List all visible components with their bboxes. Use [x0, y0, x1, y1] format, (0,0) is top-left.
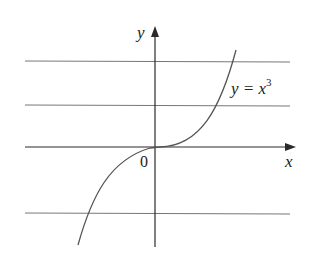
y-axis-label: y — [135, 23, 145, 42]
x-axis-label: x — [284, 152, 293, 171]
curve-label: y = x3 — [229, 76, 272, 98]
cubic-graph-figure: y x 0 y = x3 — [0, 0, 310, 259]
x-axis-arrow-icon — [285, 143, 296, 151]
horizontal-line-bottom — [25, 213, 290, 214]
horizontal-line-upper — [25, 105, 290, 106]
curve-label-exponent: 3 — [266, 76, 272, 88]
y-axis-arrow-icon — [151, 26, 159, 37]
origin-label: 0 — [140, 153, 148, 170]
horizontal-line-top — [25, 61, 290, 62]
curve-label-lhs: y = x — [229, 79, 267, 98]
